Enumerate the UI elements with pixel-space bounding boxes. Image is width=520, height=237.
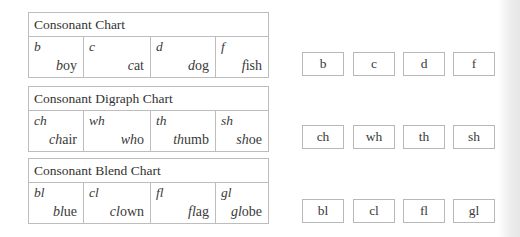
example-word: boy <box>56 58 77 74</box>
word-rest: oy <box>63 58 77 73</box>
example-word: who <box>121 132 144 148</box>
answer-box: c <box>353 52 395 76</box>
consonant-blend-chart: Consonant Blend Chart bl blue cl clown f… <box>28 158 269 224</box>
chart-cell: ch chair <box>29 111 84 151</box>
example-word: dog <box>188 58 209 74</box>
answer-box: d <box>403 52 445 76</box>
chart-title: Consonant Chart <box>29 13 268 37</box>
chart-row: bl blue cl clown fl flag gl globe <box>29 183 268 223</box>
example-word: globe <box>231 204 262 220</box>
word-prefix: cl <box>110 204 120 219</box>
example-word: blue <box>53 204 77 220</box>
example-word: flag <box>188 204 209 220</box>
word-rest: own <box>120 204 144 219</box>
chart-cell: wh who <box>84 111 151 151</box>
sound-label: d <box>156 39 163 55</box>
word-prefix: wh <box>121 132 137 147</box>
chart-cell: c cat <box>84 37 151 77</box>
sound-label: wh <box>89 113 105 129</box>
example-word: fish <box>242 58 262 74</box>
word-rest: ue <box>64 204 77 219</box>
chart-cell: f fish <box>216 37 268 77</box>
sound-label: gl <box>221 185 232 201</box>
word-rest: o <box>137 132 144 147</box>
chart-title: Consonant Digraph Chart <box>29 87 268 111</box>
word-rest: at <box>134 58 144 73</box>
word-prefix: ch <box>49 132 62 147</box>
word-rest: ish <box>246 58 262 73</box>
consonant-digraph-chart: Consonant Digraph Chart ch chair wh who … <box>28 86 269 152</box>
word-rest: og <box>195 58 209 73</box>
sound-label: sh <box>221 113 233 129</box>
chart-cell: d dog <box>151 37 216 77</box>
sound-label: f <box>221 39 225 55</box>
word-prefix: sh <box>236 132 248 147</box>
example-word: cat <box>128 58 144 74</box>
word-rest: ag <box>196 204 209 219</box>
answer-box: wh <box>353 125 395 149</box>
sound-label: th <box>156 113 167 129</box>
word-rest: air <box>62 132 77 147</box>
answer-box: gl <box>453 199 495 223</box>
chart-row: ch chair wh who th thumb sh shoe <box>29 111 268 151</box>
chart-row: b boy c cat d dog f fish <box>29 37 268 77</box>
answer-box: b <box>302 52 344 76</box>
answer-box: bl <box>302 199 344 223</box>
word-rest: oe <box>249 132 262 147</box>
chart-cell: th thumb <box>151 111 216 151</box>
page-edge-shadow <box>498 0 520 237</box>
chart-cell: gl globe <box>216 183 268 223</box>
answer-box: fl <box>403 199 445 223</box>
sound-label: cl <box>89 185 99 201</box>
chart-title: Consonant Blend Chart <box>29 159 268 183</box>
example-word: chair <box>49 132 77 148</box>
sound-label: c <box>89 39 95 55</box>
consonant-chart: Consonant Chart b boy c cat d dog f fish <box>28 12 269 78</box>
answer-box: f <box>453 52 495 76</box>
word-prefix: b <box>56 58 63 73</box>
word-rest: obe <box>242 204 262 219</box>
answer-box: th <box>403 125 445 149</box>
sound-label: ch <box>34 113 47 129</box>
chart-cell: bl blue <box>29 183 84 223</box>
chart-cell: cl clown <box>84 183 151 223</box>
chart-cell: b boy <box>29 37 84 77</box>
word-prefix: gl <box>231 204 242 219</box>
sound-label: b <box>34 39 41 55</box>
word-prefix: bl <box>53 204 64 219</box>
sound-label: bl <box>34 185 45 201</box>
example-word: shoe <box>236 132 262 148</box>
answer-box: sh <box>453 125 495 149</box>
chart-cell: sh shoe <box>216 111 268 151</box>
example-word: clown <box>110 204 144 220</box>
word-rest: umb <box>184 132 209 147</box>
example-word: thumb <box>173 132 209 148</box>
word-prefix: fl <box>188 204 196 219</box>
answer-box: ch <box>302 125 344 149</box>
word-prefix: d <box>188 58 195 73</box>
answer-box: cl <box>353 199 395 223</box>
word-prefix: th <box>173 132 184 147</box>
chart-cell: fl flag <box>151 183 216 223</box>
sound-label: fl <box>156 185 164 201</box>
